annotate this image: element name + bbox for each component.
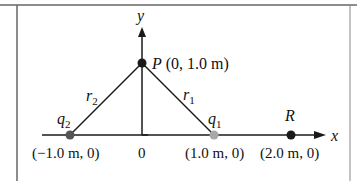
- charge-diagram: x y r2 r1 P(0, 1.0 m) q2 (−1.0 m, 0) 0 q…: [0, 0, 357, 181]
- charge-q1-coords: (1.0 m, 0): [185, 145, 244, 162]
- point-R: [287, 131, 296, 140]
- origin-label: 0: [138, 145, 146, 161]
- point-R-label: R: [284, 107, 295, 124]
- y-axis-label: y: [135, 7, 145, 25]
- charge-q2-label: q2: [57, 110, 71, 130]
- r2-label: r2: [86, 87, 98, 107]
- charge-q2-coords: (−1.0 m, 0): [32, 145, 100, 162]
- x-axis-arrow-icon: [314, 131, 326, 139]
- point-P: [138, 59, 147, 68]
- charge-q1-label: q1: [208, 110, 222, 130]
- r1-label: r1: [183, 86, 195, 106]
- y-axis-arrow-icon: [138, 27, 146, 37]
- segment-r1: [142, 63, 214, 135]
- point-P-label: P(0, 1.0 m): [151, 55, 229, 73]
- x-axis-label: x: [330, 127, 338, 144]
- diagram-frame: x y r2 r1 P(0, 1.0 m) q2 (−1.0 m, 0) 0 q…: [0, 0, 357, 181]
- point-R-coords: (2.0 m, 0): [260, 145, 319, 162]
- segment-r2: [70, 63, 142, 135]
- charge-q1: [210, 131, 219, 140]
- charge-q2: [66, 131, 75, 140]
